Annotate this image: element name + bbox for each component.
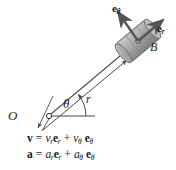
polar-kinematics-figure: O θ r B er eθ v = vrer + vθ eθ a = arer … <box>0 0 176 170</box>
radius-dimension-line <box>43 60 127 130</box>
figure-canvas <box>0 0 176 170</box>
origin-marker <box>46 113 51 118</box>
dimension-extension-origin <box>42 117 50 131</box>
